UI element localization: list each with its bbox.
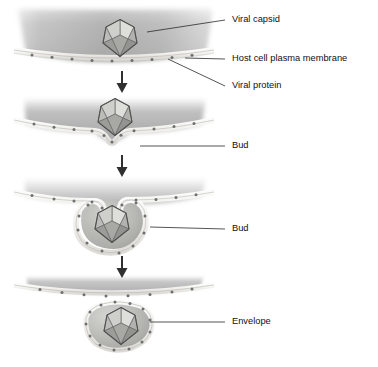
label-bud-lower: Bud — [232, 223, 249, 233]
panel-1-capsid-at-membrane — [14, 6, 214, 63]
label-viral-protein: Viral protein — [232, 80, 281, 90]
label-envelope: Envelope — [232, 316, 271, 326]
label-host-cell-plasma-membrane: Host cell plasma membrane — [232, 53, 347, 63]
label-bud-upper: Bud — [232, 140, 249, 150]
label-viral-capsid: Viral capsid — [232, 14, 280, 24]
viral-budding-diagram: Viral capsid Host cell plasma membrane V… — [0, 0, 378, 367]
diagram-canvas: Viral capsid Host cell plasma membrane V… — [0, 0, 378, 367]
